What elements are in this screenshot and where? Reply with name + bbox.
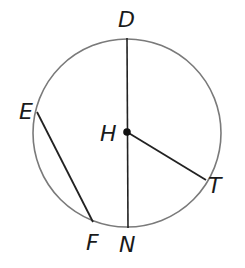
chord-ef [37, 112, 93, 222]
label-h: H [100, 121, 117, 146]
label-n: N [119, 232, 135, 257]
label-f: F [86, 230, 99, 255]
label-d: D [118, 7, 135, 32]
label-t: T [208, 173, 223, 198]
radius-ht [127, 132, 206, 180]
label-e: E [19, 99, 33, 124]
center-point-h [123, 128, 131, 136]
circle-diagram: D H E T F N [0, 0, 245, 268]
